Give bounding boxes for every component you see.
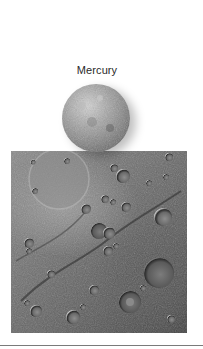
mercury-surface-image	[11, 151, 187, 333]
crater-field	[11, 151, 187, 333]
bottom-divider	[0, 345, 203, 346]
figure-title: Mercury	[0, 64, 194, 76]
globe-sphere	[62, 84, 130, 152]
mercury-globe-image	[62, 84, 132, 154]
globe-texture	[62, 84, 130, 152]
